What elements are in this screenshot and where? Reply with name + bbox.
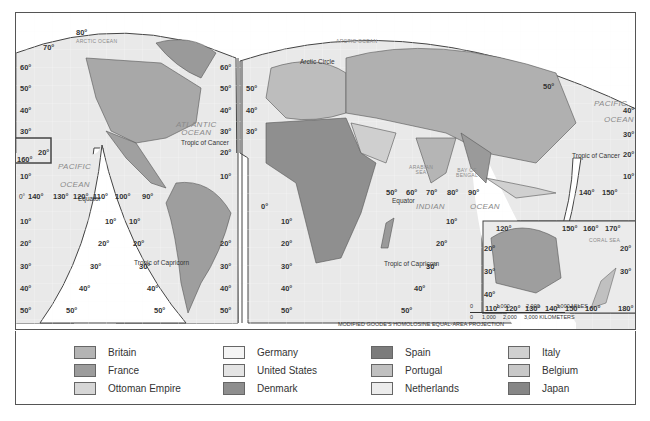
lat-label: 10° [281,218,292,226]
legend-swatch [223,346,245,359]
lat-label-80: 80° [76,29,87,37]
aus-lon-label: 170° [605,225,621,233]
lat-label: 40° [79,285,90,293]
lat-label: 0° [19,194,25,201]
lat-label: 20° [38,149,49,157]
lat-label: 50° [66,307,77,315]
lat-label: 10° [20,173,31,181]
legend-column: Germany United States Denmark [223,343,317,397]
legend-label: France [108,365,139,376]
lat-label: 20° [133,240,144,248]
lat-label: 40° [147,285,158,293]
legend-label: Britain [108,347,136,358]
africa-zero-label: 0° [261,203,268,211]
lat-label: 20° [220,149,231,157]
lon-label: 140° [579,189,595,197]
scale-km-tick: 1,000 [482,314,496,320]
hawaii-lon-label: 160° [17,156,33,164]
aus-lon-label: 120° [496,225,512,233]
lat-label: 30° [20,263,31,271]
map-scale: 0 1,000 2,000 3,000 MILES 0 1,000 2,000 … [470,303,640,322]
lat-label: 10° [105,218,116,226]
lat-label: 40° [220,285,231,293]
arctic-circle-label: Arctic Circle [300,59,335,66]
lat-label: 40° [281,285,292,293]
lon-label: 60° [406,189,417,197]
lat-label: 40° [623,107,634,115]
lat-label: 10° [623,173,634,181]
scale-mile-tick: 3,000 MILES [556,303,588,309]
ocean-label-arctic-east: ARCTIC OCEAN [336,39,377,44]
aus-lon-label: 150° [562,225,578,233]
legend-item-spain: Spain [371,343,459,361]
lat-label: 50° [281,307,292,315]
lat-label: 10° [20,218,31,226]
lat-label: 20° [20,240,31,248]
lat-label-70: 70° [43,44,54,52]
ocean-label-pacific-west: PACIFIC [58,163,91,171]
lon-label: 90° [142,193,153,201]
aus-lat-label: 30° [484,268,495,276]
lat-label: 30° [281,263,292,271]
legend-swatch [371,382,393,395]
legend-label: Netherlands [405,383,459,394]
legend-label: United States [257,365,317,376]
legend-swatch [74,346,96,359]
tropic-of-cancer-east-label: Tropic of Cancer [572,153,620,160]
legend-label: Italy [542,347,560,358]
legend-label: Denmark [257,383,298,394]
legend-swatch [74,364,96,377]
legend-swatch [74,382,96,395]
lat-label: 20° [98,240,109,248]
legend-item-france: France [74,361,181,379]
lat-label: 20° [623,151,634,159]
lon-label: 120° [73,193,89,201]
legend-item-japan: Japan [508,379,578,397]
lat-label: 60° [20,64,31,72]
lat-label: 50° [543,83,554,91]
lat-label: 30° [623,131,634,139]
legend-label: Belgium [542,365,578,376]
lat-label: 50° [220,85,231,93]
legend-swatch [508,346,530,359]
lat-label: 20° [220,240,231,248]
lat-label: 30° [426,263,437,271]
legend-column: Italy Belgium Japan [508,343,578,397]
lon-label: 110° [93,193,108,201]
ocean-label-bay-of-bengal: BAY OF BENGAL [456,168,478,179]
lon-label: 50° [386,189,397,197]
legend-item-portugal: Portugal [371,361,459,379]
lat-label: 10° [129,218,140,226]
legend-swatch [223,364,245,377]
scale-km-tick: 2,000 [503,314,517,320]
ocean-label-pacific-west-2: OCEAN [60,181,90,189]
ocean-label-pacific-east-2: OCEAN [604,116,634,124]
aus-lat-label: 40° [484,291,495,299]
legend-item-germany: Germany [223,343,317,361]
legend-item-britain: Britain [74,343,181,361]
lat-label: 50° [246,85,257,93]
legend-item-belgium: Belgium [508,361,578,379]
lat-label: 40° [20,285,31,293]
scale-km-tick: 3,000 KILOMETERS [524,314,575,320]
lat-label: 30° [246,128,257,136]
aus-lat-label: 20° [484,245,495,253]
lat-label: 40° [246,107,257,115]
legend-swatch [508,382,530,395]
scale-miles-row: 0 1,000 2,000 3,000 MILES [470,303,640,311]
aus-lat-label: 30° [620,268,631,276]
lat-label: 10° [446,218,457,226]
lon-label: 100° [115,193,131,201]
legend-label: Portugal [405,365,442,376]
legend-item-denmark: Denmark [223,379,317,397]
projection-note: MODIFIED GOODE'S HOMOLOSINE EQUAL-AREA P… [338,322,504,328]
lat-label: 30° [90,263,101,271]
legend-swatch [508,364,530,377]
lon-label: 80° [447,189,458,197]
ocean-label-arctic-west: ARCTIC OCEAN [76,39,117,44]
aus-lat-label: 20° [620,245,631,253]
lon-label: 150° [602,189,618,197]
legend-swatch [371,364,393,377]
lat-label: 40° [20,107,31,115]
legend-column: Britain France Ottoman Empire [74,343,181,397]
